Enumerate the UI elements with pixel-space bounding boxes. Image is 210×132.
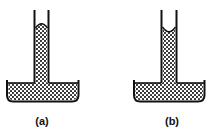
label-b: (b) xyxy=(165,115,179,127)
basin-liquid-b xyxy=(136,83,204,100)
panel-a: (a) xyxy=(7,10,79,127)
tube-liquid-a xyxy=(36,24,47,84)
label-a: (a) xyxy=(35,115,49,127)
tube-liquid-b xyxy=(163,28,175,84)
basin-liquid-a xyxy=(9,83,78,100)
capillary-diagram: (a) (b) xyxy=(0,0,210,132)
panel-b: (b) xyxy=(134,10,205,127)
